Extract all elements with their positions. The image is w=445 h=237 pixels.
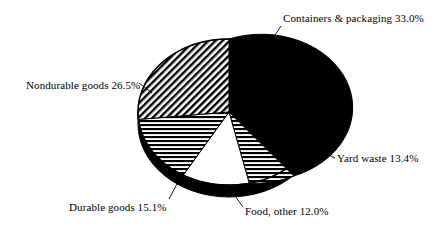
slice-label-containers-packaging: Containers & packaging 33.0% — [283, 12, 424, 25]
slice-label-durable-goods: Durable goods 15.1% — [69, 201, 167, 214]
pie-3d-body — [138, 34, 353, 197]
slice-label-yard-waste: Yard waste 13.4% — [337, 152, 418, 165]
slice-label-nondurable-goods: Nondurable goods 26.5% — [26, 79, 140, 92]
chart-page: Containers & packaging 33.0% Nondurable … — [0, 0, 445, 237]
slice-label-food-other: Food, other 12.0% — [245, 205, 329, 218]
leader-line-durable — [169, 182, 178, 199]
slice-nondurable-goods[interactable] — [138, 39, 229, 119]
pie-chart — [0, 0, 445, 237]
